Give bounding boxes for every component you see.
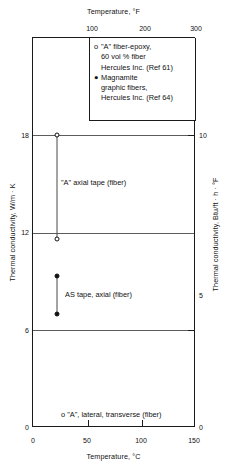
connector-a-axial-tape — [57, 135, 58, 240]
left-tick-label-0: 0 — [25, 424, 29, 431]
legend-entry-2-line-1: ●Magnamite — [94, 73, 192, 83]
legend-entry-1-line-3: Hercules Inc. (Ref 61) — [94, 63, 192, 73]
top-axis-title: Temperature, °F — [0, 7, 227, 16]
legend-text: "A" fiber-epoxy, — [101, 42, 151, 51]
top-tick-label-200: 200 — [139, 25, 151, 32]
top-tick-label-300: 300 — [190, 25, 202, 32]
left-axis-title: Thermal conductivity, W/m · K — [8, 148, 17, 318]
thermal-conductivity-chart: Temperature, °F Temperature, °C Thermal … — [0, 0, 227, 466]
right-tick-10 — [188, 135, 194, 136]
legend-text: Magnamite — [101, 73, 138, 82]
bottom-tick-label-0: 0 — [31, 437, 35, 444]
legend-entry-1-line-2: 60 vol % fiber — [94, 52, 192, 62]
bottom-tick-label-50: 50 — [83, 437, 91, 444]
bottom-tick-50 — [88, 420, 89, 426]
right-tick-label-5: 5 — [199, 292, 203, 299]
right-axis-title: Thermal conductivity, Btu/ft · h · °F — [211, 150, 220, 320]
bottom-tick-label-150: 150 — [188, 437, 200, 444]
legend: o"A" fiber-epoxy, 60 vol % fiber Hercule… — [89, 38, 196, 121]
left-tick-label-12: 12 — [21, 229, 29, 236]
right-tick-label-0: 0 — [199, 424, 203, 431]
legend-entry-2-line-3: Hercules Inc. (Ref 64) — [94, 93, 192, 103]
right-tick-label-10: 10 — [199, 132, 207, 139]
open-circle-icon: o — [94, 42, 101, 52]
annotation-a-lateral-transverse: o "A", lateral, transverse (fiber) — [61, 410, 162, 419]
legend-entry-2-line-2: graphic fibers, — [94, 83, 192, 93]
legend-entry-1-line-1: o"A" fiber-epoxy, — [94, 42, 192, 52]
data-point-a-axial-10 — [55, 237, 60, 242]
left-tick-label-6: 6 — [25, 327, 29, 334]
annotation-a-axial-tape: "A" axial tape (fiber) — [61, 178, 126, 187]
right-tick-5 — [188, 330, 194, 331]
data-point-as-tape-lower — [55, 312, 60, 317]
gridline-6 — [33, 330, 194, 331]
data-point-as-tape-upper — [55, 274, 60, 279]
bottom-tick-100 — [142, 420, 143, 426]
annotation-as-tape-axial: AS tape, axial (fiber) — [65, 290, 132, 299]
filled-circle-icon: ● — [94, 73, 101, 83]
bottom-axis-title: Temperature, °C — [0, 452, 227, 461]
left-tick-label-18: 18 — [21, 132, 29, 139]
plot-area: o"A" fiber-epoxy, 60 vol % fiber Hercule… — [32, 37, 195, 427]
connector-as-tape — [57, 276, 58, 314]
bottom-tick-label-100: 100 — [135, 437, 147, 444]
data-point-a-axial-18 — [55, 133, 60, 138]
top-tick-label-100: 100 — [86, 25, 98, 32]
